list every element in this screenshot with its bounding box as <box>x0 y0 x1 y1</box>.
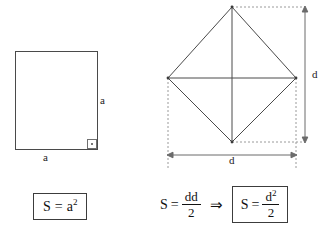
dimension-horizontal-arrow-right <box>291 152 297 158</box>
construction-lines <box>168 7 305 168</box>
dimension-vertical-arrow-top <box>302 6 308 12</box>
vertex-bottom <box>231 141 234 144</box>
dimension-vertical-arrow-bottom <box>302 137 308 143</box>
rhombus-plain-area-symbol: S <box>160 198 168 212</box>
rhombus-boxed-fraction: d2 2 <box>262 190 279 219</box>
square-side-label-right: a <box>100 95 105 106</box>
square-area-symbol: S <box>43 199 51 214</box>
dimension-horizontal-arrow-left <box>167 152 173 158</box>
rhombus-boxed-numerator: d2 <box>262 190 279 204</box>
rhombus-boxed-equals: = <box>252 198 260 212</box>
rhombus-formula-row: S = dd 2 ⇒ S = d2 2 <box>160 186 288 223</box>
vertex-left <box>167 77 170 80</box>
rhombus-plain-denominator: 2 <box>185 205 198 219</box>
rhombus-plain-numerator: dd <box>182 190 201 204</box>
rhombus-boxed-numerator-exponent: 2 <box>272 188 277 198</box>
rhombus-boxed-denominator: 2 <box>265 205 278 219</box>
vertex-top <box>231 6 234 9</box>
rhombus-dimension-label-vertical: d <box>312 69 318 80</box>
square-side-label-bottom: a <box>43 152 48 163</box>
rhombus-boxed-area-symbol: S <box>241 198 249 212</box>
rhombus-plain-equals: = <box>171 198 179 212</box>
rhombus-area-formula-plain: S = dd 2 <box>160 190 201 219</box>
square-figure <box>16 52 98 150</box>
implies-arrow-symbol: ⇒ <box>208 196 225 214</box>
rhombus-dimension-label-horizontal: d <box>229 155 235 166</box>
rhombus-plain-fraction: dd 2 <box>182 190 201 219</box>
square-area-formula: S=a2 <box>43 199 77 214</box>
rhombus-area-formula-box: S = d2 2 <box>232 186 289 223</box>
dimension-vertical <box>302 6 308 143</box>
rhombus-area-formula-boxed: S = d2 2 <box>241 190 280 219</box>
right-angle-dot <box>91 143 93 145</box>
geometry-diagram-page: a a d d S=a2 S = dd 2 ⇒ S = d2 2 <box>0 0 330 240</box>
square-area-formula-box: S=a2 <box>33 193 87 220</box>
square-outline <box>16 52 98 150</box>
rhombus-figure <box>167 6 308 168</box>
square-area-equals: = <box>51 199 67 214</box>
vertex-right <box>295 77 298 80</box>
square-area-exponent: 2 <box>73 197 78 207</box>
